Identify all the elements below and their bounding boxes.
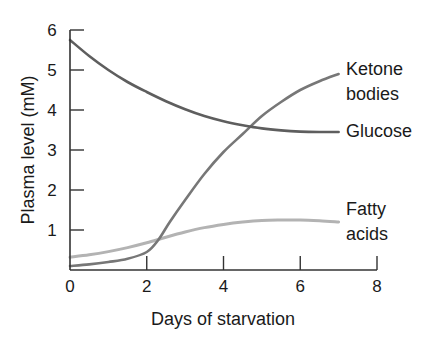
series-line-fatty-acids — [70, 220, 339, 257]
series-line-glucose — [70, 40, 339, 132]
x-tick-label: 0 — [65, 277, 74, 296]
x-tick-label: 4 — [219, 277, 228, 296]
line-chart: 12345602468 Days of starvation Plasma le… — [0, 0, 436, 351]
x-tick-label: 8 — [372, 277, 381, 296]
y-tick-label: 6 — [47, 21, 56, 40]
series-label-glucose: Glucose — [346, 121, 412, 141]
y-tick-label: 3 — [47, 141, 56, 160]
y-axis-title: Plasma level (mM) — [18, 75, 38, 224]
plot-area — [70, 40, 339, 266]
series-line-ketone-bodies — [70, 74, 339, 266]
x-axis-title: Days of starvation — [151, 309, 295, 329]
y-tick-label: 1 — [47, 221, 56, 240]
series-label-fatty-acids: acids — [346, 224, 388, 244]
x-tick-label: 2 — [142, 277, 151, 296]
y-tick-label: 2 — [47, 181, 56, 200]
series-label-fatty-acids: Fatty — [346, 199, 386, 219]
y-tick-label: 5 — [47, 61, 56, 80]
series-label-ketone-bodies: bodies — [346, 84, 399, 104]
x-tick-label: 6 — [296, 277, 305, 296]
y-tick-label: 4 — [47, 101, 56, 120]
series-label-ketone-bodies: Ketone — [346, 59, 403, 79]
series-labels: GlucoseKetonebodiesFattyacids — [346, 59, 412, 244]
